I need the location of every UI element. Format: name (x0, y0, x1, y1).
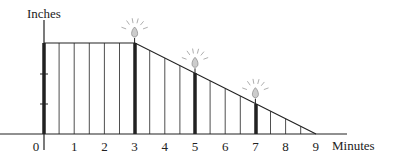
x-tick-label: 1 (71, 140, 78, 153)
x-tick-label: 6 (222, 140, 229, 153)
x-tick-label: 9 (313, 140, 320, 153)
x-tick-label: 7 (252, 140, 259, 153)
x-tick-label: 0 (33, 140, 40, 153)
x-tick-label: 4 (162, 140, 169, 153)
flame-icon (242, 79, 268, 104)
candle-diagram: Inches Minutes 0123456789 (0, 0, 393, 162)
flame-icon (121, 18, 147, 43)
x-tick-label: 8 (282, 140, 289, 153)
x-tick-label: 3 (131, 140, 138, 153)
flame-icon (182, 49, 208, 74)
x-tick-label: 5 (192, 140, 199, 153)
y-axis-label: Inches (27, 7, 61, 20)
x-tick-label: 2 (101, 140, 108, 153)
x-axis-label: Minutes (332, 139, 375, 152)
grid-lines (59, 43, 301, 134)
